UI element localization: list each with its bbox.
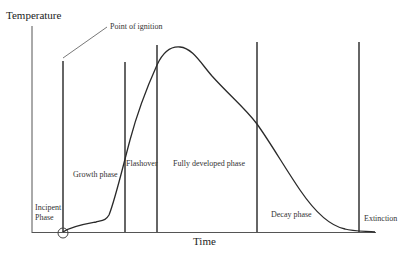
y-axis-label: Temperature [6, 9, 61, 21]
fire-development-diagram [0, 0, 415, 258]
temperature-curve [63, 47, 375, 232]
incipient-phase-line1: Incipent [35, 203, 61, 213]
decay-phase-label: Decay phase [271, 210, 312, 220]
fully-developed-phase-label: Fully developed phase [173, 159, 245, 169]
growth-phase-label: Growth phase [73, 170, 118, 180]
ignition-pointer [63, 27, 107, 58]
flashover-label: Flashover [126, 159, 158, 169]
incipient-phase-line2: Phase [35, 213, 61, 223]
incipient-phase-label: Incipent Phase [35, 203, 61, 223]
extinction-label: Extinction [364, 214, 397, 224]
point-of-ignition-label: Point of ignition [110, 22, 162, 32]
x-axis-label: Time [193, 235, 216, 247]
